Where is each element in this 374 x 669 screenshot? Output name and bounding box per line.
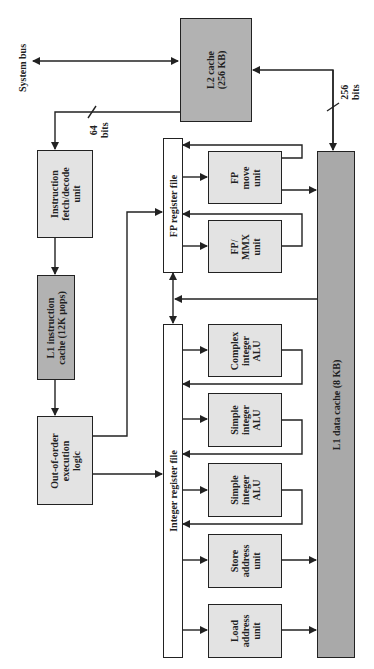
- l1-data-cache-block: L1 data cache (8 KB): [317, 151, 355, 658]
- bits-256-label: 256 bits: [339, 84, 361, 100]
- load-address-unit-label: Load address unit: [229, 615, 262, 648]
- simple-alu-1-label: Simple integer ALU: [229, 405, 262, 435]
- fp-mmx-unit-label: FP/ MMX unit: [229, 233, 262, 259]
- simple-alu-2-label: Simple integer ALU: [229, 475, 262, 505]
- out-of-order-label: Out-of-order execution logic: [49, 433, 82, 489]
- fp-move-unit-label: FP move unit: [229, 166, 262, 189]
- fetch-decode-label: Instruction fetch/decode unit: [49, 167, 82, 220]
- fp-register-file-label: FP register file: [168, 174, 179, 236]
- integer-register-file-label: Integer register file: [168, 450, 179, 532]
- complex-alu-label: Complex integer ALU: [229, 331, 262, 369]
- fetch-decode-block: Instruction fetch/decode unit: [37, 150, 93, 238]
- store-address-unit-block: Store address unit: [208, 534, 282, 588]
- simple-alu-1-block: Simple integer ALU: [208, 393, 282, 447]
- l1-data-cache-label: L1 data cache (8 KB): [331, 359, 342, 450]
- complex-alu-block: Complex integer ALU: [208, 324, 282, 377]
- fp-move-unit-block: FP move unit: [208, 151, 282, 204]
- integer-register-file-block: Integer register file: [163, 324, 183, 658]
- system-bus-label: System bus: [17, 44, 28, 92]
- simple-alu-2-block: Simple integer ALU: [208, 463, 282, 517]
- l2-cache-label: L2 cache (256 KB): [205, 51, 227, 90]
- fp-register-file-block: FP register file: [163, 138, 183, 273]
- store-address-unit-label: Store address unit: [229, 545, 262, 578]
- load-address-unit-block: Load address unit: [208, 604, 282, 658]
- fp-mmx-unit-block: FP/ MMX unit: [208, 220, 282, 273]
- diagram-canvas: System bus 64 bits 256 bits L2 cache (25…: [0, 0, 374, 669]
- l2-cache-block: L2 cache (256 KB): [180, 18, 252, 122]
- out-of-order-block: Out-of-order execution logic: [37, 416, 93, 505]
- bits-64-label: 64 bits: [88, 122, 110, 138]
- l1-instruction-cache-block: L1 instruction cache (12K µops): [37, 275, 75, 380]
- l1-instruction-cache-label: L1 instruction cache (12K µops): [45, 291, 67, 365]
